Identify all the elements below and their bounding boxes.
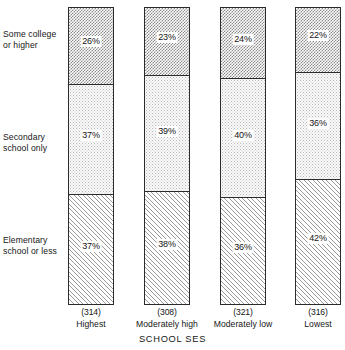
bar-column-moderately-low: 24% 40% 36% xyxy=(220,7,266,306)
segment-value-label: 42% xyxy=(308,233,329,244)
bar-column-moderately-high: 23% 39% 38% xyxy=(144,7,190,306)
row-label-some-college: Some college or higher xyxy=(3,29,65,51)
bar-segment-elementary: 37% xyxy=(68,194,114,305)
segment-value-label: 37% xyxy=(81,241,102,252)
row-label-line2: school only xyxy=(3,143,47,153)
segment-value-label: 23% xyxy=(157,32,178,43)
bar-segment-elementary: 36% xyxy=(220,197,266,305)
segment-value-label: 37% xyxy=(81,130,102,141)
segment-value-label: 36% xyxy=(308,118,329,129)
row-label-elementary-school: Elementary school or less xyxy=(3,235,65,257)
bar-column-lowest: 22% 36% 42% xyxy=(295,7,341,306)
bar-segment-some-college: 22% xyxy=(295,7,341,73)
bar-segment-secondary: 37% xyxy=(68,84,114,195)
row-label-line1: Elementary xyxy=(3,235,47,245)
segment-value-label: 39% xyxy=(157,126,178,137)
bar-segment-elementary: 42% xyxy=(295,179,341,305)
bar-segment-some-college: 23% xyxy=(144,7,190,76)
segment-value-label: 22% xyxy=(308,30,329,41)
x-axis-title: SCHOOL SES xyxy=(0,334,345,344)
bar-segment-secondary: 40% xyxy=(220,78,266,198)
x-tick-lowest: (316) Lowest xyxy=(278,307,345,330)
x-tick-count: (316) xyxy=(278,307,345,319)
bar-segment-some-college: 24% xyxy=(220,7,266,79)
stacked-bar-chart: Some college or higher Secondary school … xyxy=(0,0,345,350)
segment-value-label: 24% xyxy=(233,34,254,45)
bar-segment-some-college: 26% xyxy=(68,7,114,85)
bar-segment-secondary: 36% xyxy=(295,72,341,180)
segment-value-label: 26% xyxy=(81,36,102,47)
bar-segment-elementary: 38% xyxy=(144,191,190,305)
row-label-secondary-school: Secondary school only xyxy=(3,132,65,154)
segment-value-label: 38% xyxy=(157,239,178,250)
row-label-line1: Secondary xyxy=(3,132,45,142)
row-label-line2: school or less xyxy=(3,246,57,256)
row-label-line2: or higher xyxy=(3,40,38,50)
segment-value-label: 40% xyxy=(233,130,254,141)
bar-segment-secondary: 39% xyxy=(144,75,190,192)
x-tick-name: Lowest xyxy=(278,319,345,331)
bar-column-highest: 26% 37% 37% xyxy=(68,7,114,306)
segment-value-label: 36% xyxy=(233,242,254,253)
row-label-line1: Some college xyxy=(3,29,56,39)
